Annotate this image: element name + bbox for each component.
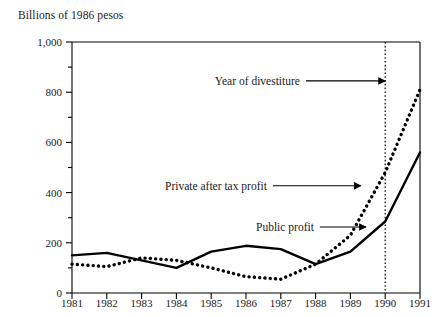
chart-root: Billions of 1986 pesos 02004006008001,00…: [0, 0, 442, 317]
y-axis-tick-label: 1,000: [18, 36, 62, 48]
plot-canvas: [0, 0, 442, 317]
chart-annotation-label: Private after tax profit: [165, 180, 267, 192]
chart-annotation-label: Public profit: [256, 221, 314, 233]
y-axis-tick-label: 400: [18, 187, 62, 199]
chart-annotation-label: Year of divestiture: [215, 75, 300, 87]
y-axis-tick-label: 200: [18, 237, 62, 249]
series-line-public-profit: [72, 152, 420, 267]
y-axis-tick-label: 600: [18, 136, 62, 148]
x-axis-tick-label: 1991: [400, 297, 440, 309]
y-axis-tick-label: 800: [18, 86, 62, 98]
